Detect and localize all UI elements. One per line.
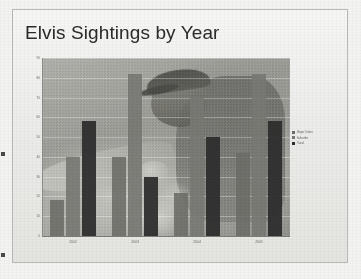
- x-axis-tick-label: 2004: [193, 240, 201, 245]
- bar: [252, 74, 266, 236]
- y-axis-tick-label: 40: [36, 155, 40, 159]
- legend-label: Suburbs: [297, 136, 309, 140]
- x-axis-tick-label: 2005: [255, 240, 263, 245]
- legend-swatch-icon: [292, 142, 295, 145]
- legend-item: Suburbs: [292, 136, 335, 140]
- legend-swatch-icon: [292, 136, 295, 139]
- y-axis-line: [42, 58, 43, 236]
- x-axis-tick-label: 2002: [69, 240, 77, 245]
- x-axis-line: [42, 236, 290, 237]
- bar: [128, 74, 142, 236]
- legend-label: Major Cities: [297, 130, 313, 134]
- bar: [144, 177, 158, 236]
- y-axis-tick-label: 30: [36, 175, 40, 179]
- y-axis-tick-label: 60: [36, 115, 40, 119]
- plot-area: [42, 58, 290, 236]
- chart-legend: Major CitiesSuburbsRural: [292, 130, 335, 147]
- y-axis-tick-label: 50: [36, 135, 40, 139]
- y-axis-tick-label: 70: [36, 96, 40, 100]
- bar: [190, 98, 204, 236]
- page-edge-artifact: [1, 152, 5, 156]
- bar: [268, 121, 282, 236]
- legend-swatch-icon: [292, 131, 295, 134]
- legend-item: Major Cities: [292, 130, 335, 134]
- bar: [112, 157, 126, 236]
- bar-chart: 9080706050403020100: [27, 58, 335, 254]
- page-edge-artifact: [1, 253, 5, 257]
- x-axis-tick-labels: 2002200320042005: [42, 238, 290, 248]
- presentation-slide: Elvis Sightings by Year 9080706050403020…: [12, 9, 348, 263]
- page-title: Elvis Sightings by Year: [25, 22, 220, 44]
- bar: [236, 153, 250, 236]
- y-axis-tick-label: 0: [38, 234, 40, 238]
- legend-label: Rural: [297, 141, 304, 145]
- x-axis-tick-label: 2003: [131, 240, 139, 245]
- bar-series-group: [42, 58, 290, 236]
- bar: [174, 193, 188, 237]
- bar: [82, 121, 96, 236]
- y-axis-tick-label: 80: [36, 76, 40, 80]
- bar: [50, 200, 64, 236]
- bar: [66, 157, 80, 236]
- y-axis-tick-label: 90: [36, 56, 40, 60]
- y-axis-tick-label: 10: [36, 214, 40, 218]
- legend-item: Rural: [292, 141, 335, 145]
- scanned-page-background: Elvis Sightings by Year 9080706050403020…: [0, 0, 361, 279]
- y-axis-tick-label: 20: [36, 194, 40, 198]
- y-axis: 9080706050403020100: [27, 58, 41, 236]
- bar: [206, 137, 220, 236]
